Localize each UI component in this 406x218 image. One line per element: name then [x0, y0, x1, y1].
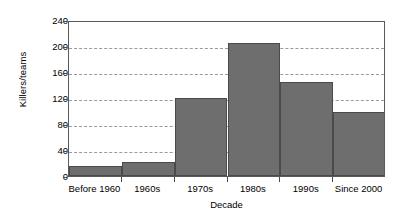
x-tick-label: Since 2000: [324, 183, 393, 195]
y-tick-mark: [63, 99, 67, 100]
bar[interactable]: [175, 98, 228, 176]
y-tick-mark: [63, 177, 67, 178]
bar[interactable]: [228, 43, 281, 176]
bar[interactable]: [122, 162, 175, 176]
x-tick-mark: [121, 177, 122, 182]
x-tick-mark: [174, 177, 175, 182]
y-tick-mark: [63, 47, 67, 48]
bar-chart-figure: Killers/teams 04080120160200240 Before 1…: [0, 0, 406, 218]
y-tick-mark: [63, 73, 67, 74]
y-tick-mark: [63, 21, 67, 22]
y-tick-label: 40: [28, 146, 68, 156]
bar[interactable]: [333, 112, 385, 176]
x-tick-mark: [279, 177, 280, 182]
plot-area: [68, 21, 385, 177]
x-tick-mark: [332, 177, 333, 182]
bar[interactable]: [280, 82, 333, 176]
y-tick-label: 200: [28, 42, 68, 52]
x-tick-mark: [227, 177, 228, 182]
y-tick-label: 0: [28, 172, 68, 182]
gridline-200: [69, 48, 384, 49]
gridline-160: [69, 74, 384, 75]
y-tick-mark: [63, 125, 67, 126]
y-tick-label: 160: [28, 68, 68, 78]
y-tick-mark: [63, 151, 67, 152]
y-tick-label: 240: [28, 16, 68, 26]
y-tick-label: 80: [28, 120, 68, 130]
x-axis-title: Decade: [68, 199, 385, 210]
bar[interactable]: [69, 166, 122, 176]
y-tick-label: 120: [28, 94, 68, 104]
